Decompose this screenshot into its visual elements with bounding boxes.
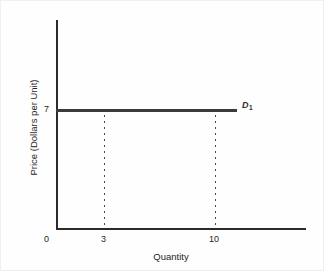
x-axis-tick-label-3: 3 [101,234,106,244]
demand-curve-line [56,109,237,112]
x-axis-tick-label-10: 10 [209,234,219,244]
x-axis-title: Quantity [111,251,231,262]
plot-area: D1 7 0 3 10 Price (Dollars per Unit) Qua… [1,1,323,270]
guide-line-quantity-3 [104,115,105,228]
demand-curve-label: D1 [242,100,252,110]
demand-curve-chart: D1 7 0 3 10 Price (Dollars per Unit) Qua… [0,0,324,271]
x-axis-line [56,228,306,230]
demand-curve-label-text: D [242,100,249,110]
demand-curve-label-subscript: 1 [249,104,253,111]
y-axis-title: Price (Dollars per Unit) [28,60,39,195]
y-axis-tick-label-7: 7 [44,104,49,114]
guide-line-quantity-10 [215,115,216,228]
y-axis-line [56,20,58,230]
x-axis-tick-label-0: 0 [44,234,49,244]
